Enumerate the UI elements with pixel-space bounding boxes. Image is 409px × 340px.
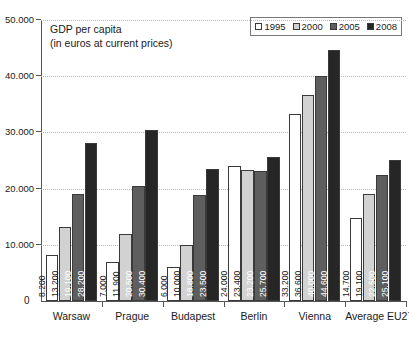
x-axis-separator [406,301,407,307]
y-axis-tick: 30.000 [0,126,41,138]
y-axis-tick: 40.000 [0,70,41,82]
y-axis-tick: 20.000 [0,183,41,195]
bar-value-label: 10.000 [172,271,182,297]
bar-group-vienna: 33.20036.60040.00044.600 [284,20,345,301]
x-axis-separator [163,301,164,307]
bar-prague-2008[interactable]: 30.400 [145,130,158,301]
category-label-average-eu27: Average EU27 [345,309,406,323]
y-axis-tick-label: 40.000 [5,70,34,82]
bar-value-wrap: 44.600 [329,287,340,297]
bar-value-label: 23.500 [198,271,208,297]
bar-group-berlin: 24.00023.40023.20025.700 [224,20,285,301]
category-label-warsaw: Warsaw [41,309,102,323]
category-label-vienna: Vienna [284,309,345,323]
bar-value-label: 23.200 [245,271,255,297]
x-axis-separator [284,301,285,307]
bar-value-label: 19.100 [63,271,73,297]
x-axis-separator [102,301,103,307]
bar-value-label: 11.900 [111,271,121,297]
bar-value-wrap: 30.400 [146,287,157,297]
bar-value-label: 40.000 [306,271,316,297]
y-axis-tick: 10.000 [0,239,41,251]
bar-value-label: 6.000 [159,275,169,297]
bar-value-label: 20.500 [124,271,134,297]
bar-value-wrap: 25.700 [268,287,279,297]
bar-value-label: 14.700 [341,271,351,297]
bar-berlin-2008[interactable]: 25.700 [267,157,280,301]
category-label-berlin: Berlin [224,309,285,323]
bar-value-label: 36.600 [293,271,303,297]
gdp-per-capita-bar-chart: GDP per capita (in euros at current pric… [0,0,409,340]
bar-group-prague: 7.00011.90020.50030.400 [102,20,163,301]
bar-value-label: 8.200 [37,275,47,297]
bar-value-label: 18.800 [185,271,195,297]
bar-value-label: 23.400 [232,271,242,297]
bar-group-budapest: 6.00010.00018.80023.500 [163,20,224,301]
bar-value-label: 28.200 [76,271,86,297]
bar-value-label: 22.500 [367,271,377,297]
bar-value-label: 30.400 [137,271,147,297]
bar-value-label: 25.100 [380,271,390,297]
bar-warsaw-2008[interactable]: 28.200 [85,143,98,301]
y-axis-tick: 50.000 [0,14,41,26]
y-axis-zero-label: 0 [24,295,30,306]
bar-value-label: 44.600 [319,271,329,297]
bar-vienna-2005[interactable]: 40.000 [315,76,328,301]
bar-value-label: 13.200 [50,271,60,297]
category-label-prague: Prague [102,309,163,323]
bar-group-warsaw: 8.20013.20019.10028.200 [41,20,102,301]
bar-average-eu27-2008[interactable]: 25.100 [389,160,402,301]
category-label-budapest: Budapest [163,309,224,323]
bar-value-label: 24.000 [219,271,229,297]
y-axis-tick-label: 50.000 [5,14,34,26]
plot-area: 8.20013.20019.10028.2007.00011.90020.500… [41,20,406,301]
x-axis-separator [224,301,225,307]
bar-value-wrap: 28.200 [86,287,97,297]
bar-value-wrap: 25.100 [390,287,401,297]
bar-vienna-2008[interactable]: 44.600 [328,50,341,301]
y-axis-tick-label: 30.000 [5,126,34,138]
bar-value-wrap: 23.500 [207,287,218,297]
bar-value-label: 25.700 [258,271,268,297]
x-axis-separator [345,301,346,307]
bar-value-label: 33.200 [280,271,290,297]
bar-value-label: 19.100 [354,271,364,297]
bar-value-label: 7.000 [98,275,108,297]
y-axis-tick-label: 10.000 [5,239,34,251]
bar-budapest-2008[interactable]: 23.500 [206,169,219,301]
y-axis-tick-label: 20.000 [5,183,34,195]
bar-group-average-eu27: 14.70019.10022.50025.100 [345,20,406,301]
